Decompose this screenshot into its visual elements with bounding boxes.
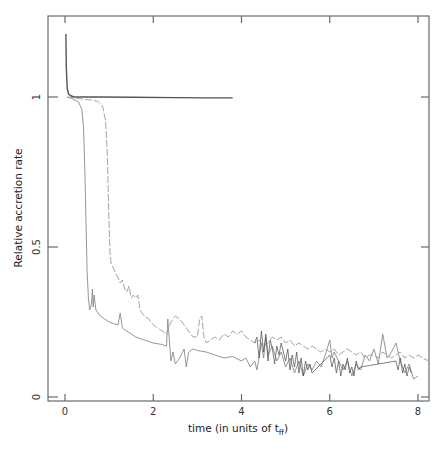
y-axis-label: Relative accretion rate xyxy=(12,149,24,268)
y-tick-label: 1 xyxy=(31,94,42,100)
y-tick-label: 0.5 xyxy=(31,239,42,255)
x-axis-label: time (in units of tff) xyxy=(188,422,288,437)
y-tick-label: 0 xyxy=(31,394,42,400)
x-tick-label: 0 xyxy=(62,406,68,417)
x-tick-label: 4 xyxy=(238,406,244,417)
x-tick-label: 6 xyxy=(327,406,333,417)
accretion-rate-chart: 0246800.51 time (in units of tff) Relati… xyxy=(0,0,445,449)
x-tick-label: 2 xyxy=(150,406,156,417)
x-tick-label: 8 xyxy=(415,406,421,417)
plot-frame xyxy=(48,16,429,401)
